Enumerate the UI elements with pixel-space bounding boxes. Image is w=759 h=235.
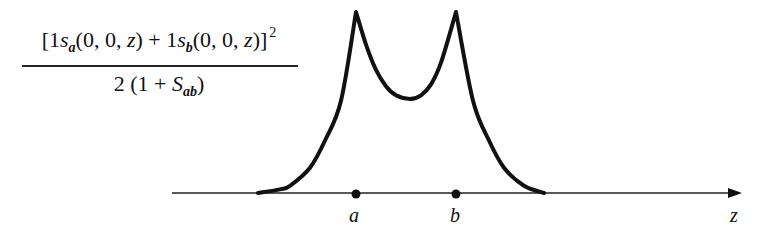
nucleus-b-label: b <box>450 205 460 225</box>
nucleus-a-dot <box>352 190 361 199</box>
density-curve <box>258 12 544 193</box>
z-axis-label: z <box>730 205 738 225</box>
axis-arrowhead-icon <box>728 188 742 198</box>
nucleus-b-dot <box>452 190 461 199</box>
nucleus-a-label: a <box>349 205 359 225</box>
plot-area <box>0 0 759 235</box>
